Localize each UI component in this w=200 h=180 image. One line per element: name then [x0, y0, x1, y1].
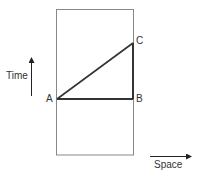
segment-a-c	[57, 43, 133, 99]
space-axis-label: Space	[154, 160, 182, 170]
frame-rectangle	[57, 10, 134, 156]
point-b-label: B	[136, 94, 143, 104]
diagram-canvas	[0, 0, 200, 180]
point-c-label: C	[136, 36, 143, 46]
point-a-label: A	[46, 94, 53, 104]
time-axis-label: Time	[6, 71, 28, 81]
